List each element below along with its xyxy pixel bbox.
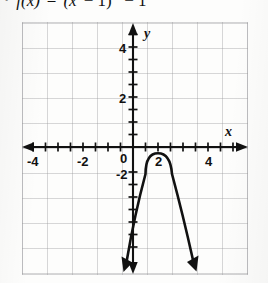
expression-minus-one: − 1) [84, 0, 112, 10]
y-axis-label: y [144, 27, 150, 41]
graph-plot [22, 22, 248, 275]
x-tick-label-4: 4 [205, 155, 212, 168]
x-tick-label-2: 2 [155, 155, 162, 168]
exponent: 2 [112, 0, 118, 2]
y-tick-label-2: 2 [119, 92, 126, 105]
expression-open: (x [63, 0, 76, 10]
equals-sign: = [47, 0, 57, 10]
y-axis [128, 23, 137, 274]
x-axis-label: x [225, 125, 232, 139]
equation-text: •f(x)=(x− 1)2− 1 [4, 0, 147, 11]
list-bullet: • [4, 0, 9, 7]
expression-tail: − 1 [124, 0, 146, 10]
scanned-page: •f(x)=(x− 1)2− 1 [0, 0, 268, 283]
y-tick-label--2: -2 [116, 168, 128, 181]
equation-line: •f(x)=(x− 1)2− 1 [0, 0, 268, 15]
x-tick-label--4: -4 [27, 155, 39, 168]
x-tick-label-0: 0 [120, 152, 127, 165]
x-axis [22, 142, 248, 152]
y-tick-label-4: 4 [119, 42, 126, 55]
coordinate-graph: -4 -2 0 2 4 -2 2 4 y x [22, 22, 248, 275]
function-notation: f(x) [16, 0, 40, 10]
x-tick-label--2: -2 [77, 155, 89, 168]
